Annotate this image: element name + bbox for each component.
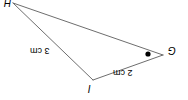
triangle-diagram: H G I 3 cm 2 cm <box>0 0 188 100</box>
triangle-svg-canvas <box>0 0 188 100</box>
vertex-label-g: G <box>168 45 176 55</box>
vertex-label-i: I <box>88 83 91 93</box>
side-length-label-hi: 3 cm <box>30 46 50 55</box>
side-length-label-ig: 2 cm <box>113 68 133 77</box>
vertex-label-h: H <box>4 0 11 7</box>
triangle-side-hi <box>13 3 93 80</box>
angle-marker-dot-icon <box>145 51 150 56</box>
